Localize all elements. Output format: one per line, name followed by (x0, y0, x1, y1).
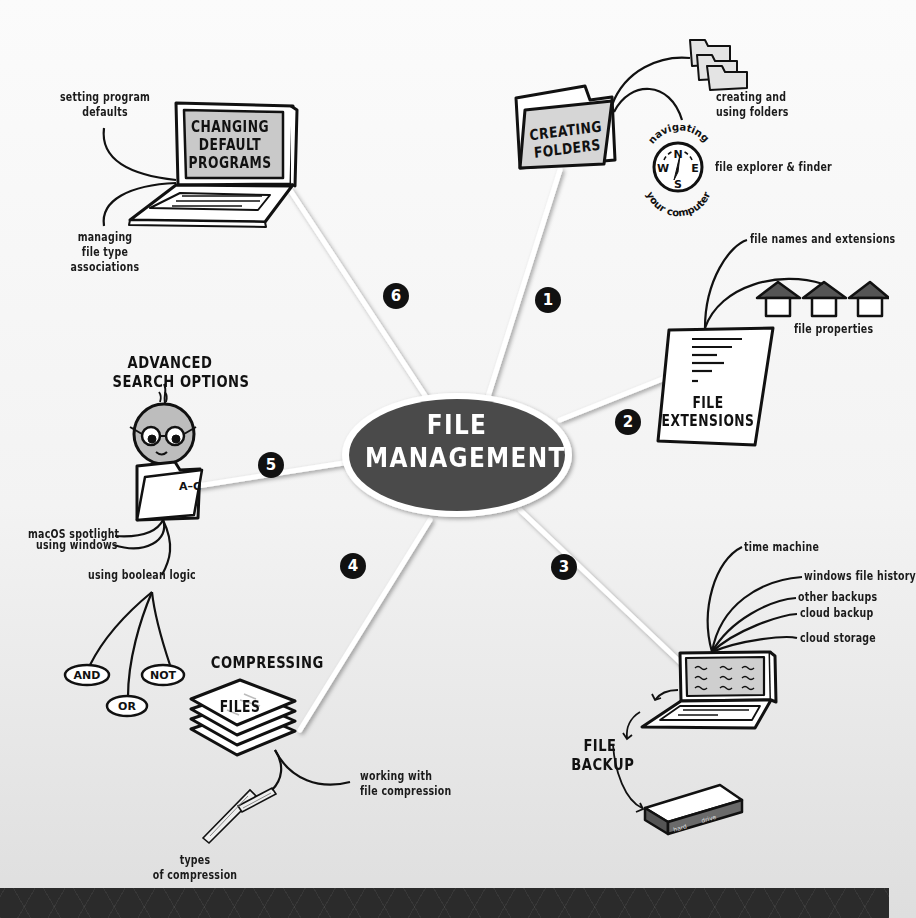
footer-pattern-bar (0, 888, 889, 918)
label-time-machine: time machine (744, 540, 819, 555)
label-managing-file-type-associations: managingfile typeassociations (64, 230, 146, 275)
branch-2-badge: 2 (615, 409, 641, 435)
curve-lines-b1 (612, 58, 690, 120)
center-title-line1: FILE (365, 408, 549, 441)
and-label: AND (74, 669, 101, 682)
not-label: NOT (150, 669, 177, 682)
label-windows-file-history: windows file history (804, 569, 916, 584)
center-title-line2: MANAGEMENT (365, 441, 549, 474)
label-using-boolean-logic: using boolean logic (88, 568, 196, 583)
folders-stack-icon (690, 40, 747, 90)
label-using-windows: using windows (36, 538, 118, 553)
compass-n: N (673, 148, 682, 161)
label-file-names-and-extensions: file names and extensions (750, 232, 895, 247)
your-computer-label: your computer (645, 190, 713, 219)
label-other-backups: other backups (798, 590, 877, 605)
branch-4-badge: 4 (340, 553, 366, 579)
curve-lines-b2 (705, 240, 823, 328)
branch-3-title: FILE BACKUP (571, 736, 628, 774)
label-file-properties: file properties (794, 322, 873, 337)
or-label: OR (118, 700, 136, 713)
branch-4-title-line2: FILES (215, 698, 264, 717)
hard-drive-icon (645, 785, 742, 834)
search-character-icon (130, 384, 202, 520)
center-title: FILE MANAGEMENT (365, 408, 549, 474)
branch-6-title: CHANGING DEFAULT PROGRAMS (181, 118, 279, 172)
curve-lines-b3 (708, 547, 802, 652)
zipper-icon (203, 788, 276, 843)
branch-3-badge: 3 (551, 554, 577, 580)
branch-4-title-line1: COMPRESSING (211, 653, 309, 672)
label-working-with-file-compression: working withfile compression (360, 769, 452, 799)
curve-lines-b4 (272, 750, 350, 790)
backup-laptop-icon (642, 652, 776, 728)
label-types-of-compression: typesof compression (150, 853, 240, 883)
label-cloud-storage: cloud storage (800, 631, 876, 646)
svg-text:W: W (657, 162, 669, 175)
label-creating-and-using-folders: creating andusing folders (716, 90, 789, 120)
label-cloud-backup: cloud backup (800, 606, 873, 621)
svg-text:E: E (691, 162, 699, 175)
stacked-files-icon (191, 680, 295, 755)
label-setting-program-defaults: setting programdefaults (52, 90, 159, 120)
label-file-explorer-finder: file explorer & finder (715, 160, 832, 175)
branch-5-title: ADVANCED SEARCH OPTIONS (113, 353, 228, 391)
house-icons (757, 282, 889, 316)
branch-1-badge: 1 (535, 287, 561, 313)
branch-5-badge: 5 (258, 452, 284, 478)
folder-label: A–C (179, 480, 201, 493)
svg-text:S: S (674, 178, 682, 191)
branch-2-title: FILE EXTENSIONS (659, 394, 757, 430)
branch-6-badge: 6 (383, 283, 409, 309)
